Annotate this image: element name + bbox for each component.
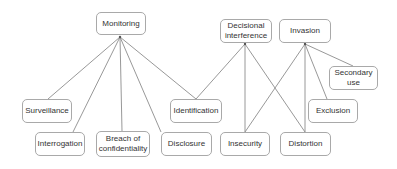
- node-label: Monitoring: [102, 19, 139, 29]
- node-distortion: Distortion: [280, 132, 331, 156]
- node-identification: Identification: [170, 99, 222, 123]
- node-decisional: Decisional interference: [220, 19, 272, 43]
- node-label: Secondary use: [334, 68, 372, 88]
- node-exclusion: Exclusion: [308, 99, 358, 123]
- node-breach: Breach of confidentiality: [96, 131, 150, 157]
- node-monitoring: Monitoring: [96, 12, 146, 35]
- node-label: Exclusion: [316, 106, 350, 116]
- anchor-dot-invasion: [304, 43, 306, 45]
- node-label: Insecurity: [228, 139, 262, 149]
- node-label: Distortion: [289, 139, 323, 149]
- edge-monitoring-to-identification: [120, 37, 196, 99]
- anchor-dot-decisional: [244, 43, 246, 45]
- node-label: Identification: [174, 106, 219, 116]
- edge-decisional-to-identification: [196, 44, 245, 99]
- node-insecurity: Insecurity: [220, 132, 270, 156]
- node-label: Interrogation: [38, 139, 83, 149]
- edge-monitoring-to-interrogation: [73, 37, 120, 132]
- node-interrogation: Interrogation: [35, 132, 85, 156]
- edge-monitoring-to-disclosure: [120, 37, 161, 132]
- node-secondary: Secondary use: [329, 66, 378, 90]
- node-label: Invasion: [290, 26, 320, 36]
- node-disclosure: Disclosure: [161, 132, 212, 156]
- edge-monitoring-to-surveillance: [48, 37, 120, 99]
- node-invasion: Invasion: [279, 19, 331, 43]
- node-label: Surveillance: [25, 106, 69, 116]
- node-label: Decisional interference: [225, 21, 267, 41]
- edge-monitoring-to-breach: [120, 37, 122, 131]
- anchor-dot-monitoring: [119, 36, 121, 38]
- node-label: Disclosure: [168, 139, 205, 149]
- node-label: Breach of confidentiality: [99, 134, 147, 154]
- node-surveillance: Surveillance: [22, 99, 72, 123]
